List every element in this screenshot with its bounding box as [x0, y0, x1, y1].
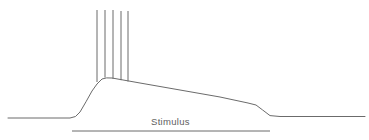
membrane-potential-trace [8, 78, 365, 118]
stimulus-label: Stimulus [151, 117, 190, 127]
action-potential-spikes-group [97, 10, 128, 82]
figure-root: Stimulus [0, 0, 369, 140]
membrane-potential-trace-group [8, 78, 365, 118]
